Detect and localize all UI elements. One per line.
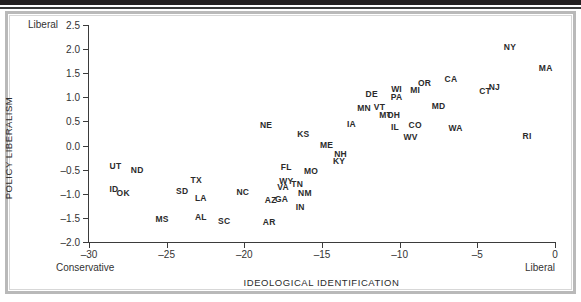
data-point-label: MS	[155, 215, 168, 224]
data-point-label: WV	[403, 133, 417, 142]
x-axis-tick-label: –20	[236, 249, 253, 260]
x-axis-tick	[555, 242, 556, 248]
data-point-label: NY	[504, 43, 516, 52]
y-axis-tick-label: 0.5	[66, 116, 80, 127]
data-point-label: ME	[320, 140, 333, 149]
y-axis-tick-label: –2.0	[61, 237, 80, 248]
y-axis-tick	[83, 194, 89, 195]
data-point-label: MN	[357, 104, 371, 113]
data-point-label: OH	[387, 110, 400, 119]
x-axis-tick-label: –15	[314, 249, 331, 260]
y-axis-tick	[83, 97, 89, 98]
y-axis-tick	[83, 25, 89, 26]
data-point-label: OK	[117, 189, 130, 198]
x-axis-tick	[89, 242, 90, 248]
data-point-label: CA	[445, 75, 458, 84]
y-axis-tick	[83, 73, 89, 74]
data-point-label: TX	[191, 176, 202, 185]
data-point-label: AL	[195, 213, 207, 222]
y-axis-top-annotation: Liberal	[28, 19, 58, 30]
y-axis-tick-label: –1.0	[61, 188, 80, 199]
x-axis-tick-label: –25	[158, 249, 175, 260]
x-axis-tick	[322, 242, 323, 248]
x-axis-tick-label: –30	[81, 249, 98, 260]
data-point-label: DE	[366, 90, 378, 99]
data-point-label: IL	[391, 123, 399, 132]
x-axis-tick-label: –10	[391, 249, 408, 260]
data-point-label: WA	[449, 124, 463, 133]
data-point-label: MA	[539, 64, 553, 73]
x-axis-tick	[477, 242, 478, 248]
x-axis-tick	[167, 242, 168, 248]
data-point-label: KS	[297, 129, 309, 138]
data-point-label: NE	[260, 121, 272, 130]
x-axis-tick-label: –5	[472, 249, 483, 260]
y-axis-tick	[83, 218, 89, 219]
x-axis-tick	[400, 242, 401, 248]
x-axis-tick	[244, 242, 245, 248]
data-point-label: UT	[110, 162, 122, 171]
x-axis-tick-label: 0	[552, 249, 558, 260]
y-axis-tick	[83, 146, 89, 147]
data-point-label: IN	[296, 203, 305, 212]
y-axis-tick	[83, 121, 89, 122]
data-point-label: AR	[263, 217, 276, 226]
y-axis-tick-label: 0.0	[66, 140, 80, 151]
data-point-label: FL	[281, 163, 292, 172]
data-point-label: LA	[195, 194, 207, 203]
y-axis-tick-label: 1.0	[66, 92, 80, 103]
y-axis-tick-label: 2.5	[66, 20, 80, 31]
page-top-rule-thin	[0, 7, 581, 9]
data-point-label: SC	[218, 217, 230, 226]
x-axis-left-annotation: Conservative	[56, 262, 114, 273]
data-point-label: MO	[304, 167, 318, 176]
data-point-label: NM	[298, 189, 312, 198]
data-point-label: ND	[131, 165, 144, 174]
y-axis-tick-label: 1.5	[66, 68, 80, 79]
x-axis-title: IDEOLOGICAL IDENTIFICATION	[88, 277, 555, 288]
data-point-label: CO	[409, 121, 422, 130]
data-point-label: GA	[275, 194, 288, 203]
y-axis-tick-label: 2.0	[66, 44, 80, 55]
data-point-label: SD	[176, 187, 188, 196]
y-axis-tick-label: –1.5	[61, 212, 80, 223]
data-point-label: PA	[391, 93, 403, 102]
data-point-label: RI	[523, 132, 532, 141]
x-axis-right-annotation: Liberal	[525, 262, 555, 273]
y-axis-title: POLICY LIBERALISM	[3, 97, 14, 200]
y-axis-tick	[83, 170, 89, 171]
data-point-label: MD	[432, 101, 446, 110]
figure-root: Liberal Conservative Liberal POLICY LIBE…	[0, 0, 581, 302]
data-point-label: NJ	[489, 82, 500, 91]
data-point-label: NH	[334, 150, 347, 159]
data-point-label: NC	[236, 188, 249, 197]
data-point-label: OR	[418, 79, 431, 88]
y-axis-tick-label: –0.5	[61, 164, 80, 175]
scatter-plot-area: –2.0–1.5–1.0–0.50.00.51.01.52.02.5–30–25…	[88, 25, 555, 243]
data-point-label: IA	[347, 120, 356, 129]
y-axis-tick	[83, 49, 89, 50]
